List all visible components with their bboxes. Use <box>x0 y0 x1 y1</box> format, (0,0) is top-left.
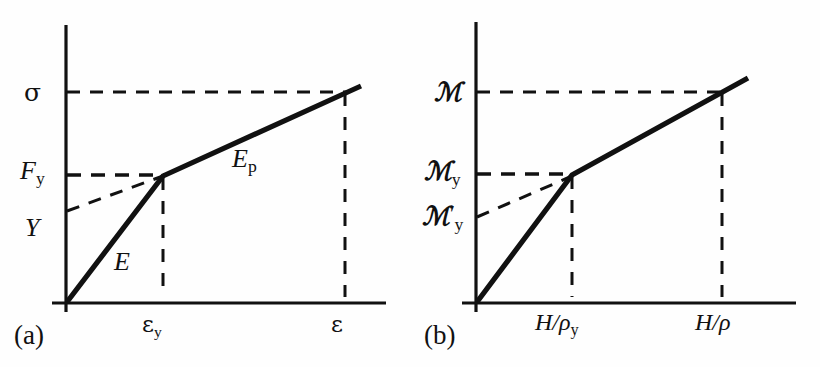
y-tick-label-Fy-subscript: y <box>36 168 45 188</box>
panel-caption-a: (a) <box>14 322 44 349</box>
curve-label-Ep-subscript: p <box>248 156 257 176</box>
y-tick-label-script-My-base: ℳ <box>424 156 452 186</box>
y-tick-label-Fy-base: F <box>20 156 36 185</box>
panel-caption-b: (b) <box>424 322 455 349</box>
y-tick-label-script-M-prime-y-base: ℳ <box>422 201 450 231</box>
x-tick-label-H-over-rho-y-subscript: y <box>571 320 579 339</box>
panel-a-plot <box>0 0 410 367</box>
figure-root: σ Fy Y εy ε E Ep (a) ℳ ℳy ℳ′y <box>0 0 820 367</box>
y-tick-label-script-M-prime-y: ℳ′y <box>422 203 463 230</box>
y-tick-label-script-M-prime-y-subscript: y <box>455 214 464 234</box>
y-tick-label-Fy: Fy <box>20 158 45 184</box>
x-tick-label-epsilon-y: εy <box>142 313 162 336</box>
y-tick-label-script-My: ℳy <box>424 158 461 185</box>
x-tick-label-epsilon-y-subscript: y <box>154 323 162 340</box>
curve-label-Ep-base: E <box>232 144 248 173</box>
panel-b-plot <box>410 0 820 367</box>
y-tick-label-Y: Y <box>25 215 39 241</box>
x-tick-label-epsilon-y-base: ε <box>142 311 154 337</box>
bilinear-moment-curvature-curve <box>477 78 748 302</box>
curve-label-E: E <box>114 249 130 275</box>
x-tick-label-H-over-rho: H/ρ <box>695 310 731 334</box>
x-tick-label-H-over-rho-y: H/ρy <box>535 310 579 334</box>
y-tick-label-sigma: σ <box>24 80 41 105</box>
y-tick-label-script-M: ℳ <box>434 79 462 105</box>
curve-label-Ep: Ep <box>232 146 257 172</box>
x-tick-label-H-over-rho-y-base: H/ρ <box>535 309 571 335</box>
y-tick-label-script-My-subscript: y <box>452 169 461 189</box>
panel-a-stress-strain: σ Fy Y εy ε E Ep (a) <box>0 0 410 367</box>
x-tick-label-epsilon: ε <box>331 313 343 336</box>
panel-b-moment-curvature: ℳ ℳy ℳ′y H/ρy H/ρ (b) <box>410 0 820 367</box>
